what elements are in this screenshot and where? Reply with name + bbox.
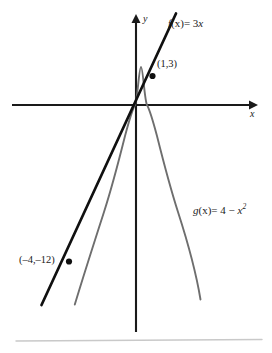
function-label-f: f(x)= 3x [168,18,203,29]
function-label-f-var: x [198,17,203,29]
y-axis-label: y [143,14,147,24]
function-label-g: g(x)= 4 − x2 [193,203,246,216]
y-axis [132,14,141,332]
line-curve-f [42,14,177,306]
bottom-divider-rule [16,340,262,342]
point-label-1-3: (1,3) [157,59,177,70]
function-label-f-equals: = 3 [184,17,198,29]
plot-canvas [0,0,272,353]
intersection-point-1-3-marker [149,73,155,79]
point-label-neg4-neg12: (–4,–12) [19,255,55,266]
function-label-g-exponent: 2 [242,202,246,211]
y-axis-arrowhead [132,14,141,23]
intersection-point-neg4-neg12-marker [66,258,72,264]
parabola-curve-g [75,67,201,305]
function-label-f-arg: (x) [171,17,184,29]
function-label-g-arg: (x) [199,204,212,216]
function-graph-figure: y x f(x)= 3x g(x)= 4 − x2 (1,3) (–4,–12) [0,0,272,353]
function-label-g-minus: − [229,204,235,216]
function-label-g-equals: = 4 [211,204,225,216]
x-axis-label: x [250,109,254,119]
